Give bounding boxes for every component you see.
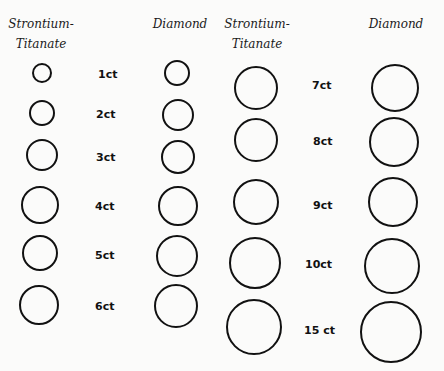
carat-label: 2ct xyxy=(96,108,115,121)
strontium-titanate-circle xyxy=(19,285,59,325)
diamond-circle xyxy=(154,284,198,328)
strontium-titanate-circle xyxy=(226,299,282,355)
diamond-circle xyxy=(369,117,419,167)
diamond-circle xyxy=(162,99,194,131)
strontium-titanate-circle xyxy=(21,186,59,224)
carat-label: 8ct xyxy=(313,135,332,148)
diamond-circle xyxy=(161,140,195,174)
diamond-circle xyxy=(371,64,419,112)
carat-label: 10ct xyxy=(305,258,332,271)
diamond-circle xyxy=(360,301,422,363)
carat-label: 7ct xyxy=(312,79,331,92)
diamond-circle xyxy=(158,186,198,226)
diamond-circle xyxy=(368,177,418,227)
carat-label: 5ct xyxy=(95,249,114,262)
strontium-titanate-circle xyxy=(22,235,58,271)
carat-label: 4ct xyxy=(95,200,114,213)
strontium-titanate-circle xyxy=(234,118,278,162)
header-left-strontium-titanate: Strontium- Titanate xyxy=(5,14,77,54)
strontium-titanate-circle xyxy=(229,237,281,289)
carat-label: 6ct xyxy=(95,300,114,313)
strontium-titanate-circle xyxy=(234,66,278,110)
diamond-circle xyxy=(156,235,198,277)
header-line: Titanate xyxy=(218,34,296,54)
strontium-titanate-circle xyxy=(32,63,52,83)
header-right-strontium-titanate: Strontium- Titanate xyxy=(218,14,296,54)
header-line: Strontium- xyxy=(5,14,77,34)
strontium-titanate-circle xyxy=(233,179,279,225)
strontium-titanate-circle xyxy=(26,139,58,171)
header-line: Titanate xyxy=(5,34,77,54)
diamond-circle xyxy=(164,60,190,86)
carat-label: 9ct xyxy=(313,199,332,212)
carat-size-comparison-diagram: Strontium- Titanate Diamond Strontium- T… xyxy=(0,0,444,371)
carat-label: 3ct xyxy=(96,151,115,164)
header-right-diamond: Diamond xyxy=(358,14,434,34)
header-left-diamond: Diamond xyxy=(145,14,215,34)
diamond-circle xyxy=(364,238,420,294)
carat-label: 15 ct xyxy=(304,324,335,337)
carat-label: 1ct xyxy=(98,68,117,81)
strontium-titanate-circle xyxy=(29,100,55,126)
header-line: Strontium- xyxy=(218,14,296,34)
